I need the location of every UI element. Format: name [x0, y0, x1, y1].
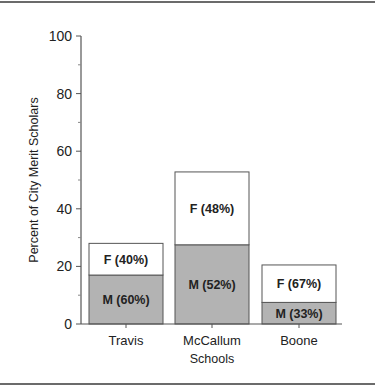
bar-mccallum: M (52%)F (48%)	[175, 172, 249, 324]
y-axis-title: Percent of City Merit Scholars	[27, 97, 41, 262]
segment-label: F (67%)	[277, 277, 321, 291]
y-tick-label: 80	[56, 86, 72, 102]
category-label: McCallum	[183, 333, 241, 348]
segment-label: M (52%)	[188, 278, 235, 292]
category-label: Boone	[280, 333, 318, 348]
x-axis-title: Schools	[190, 352, 234, 366]
y-tick-label: 60	[56, 143, 72, 159]
segment-label: F (48%)	[190, 202, 234, 216]
y-tick-label: 20	[56, 258, 72, 274]
bar-boone: M (33%)F (67%)	[262, 265, 336, 324]
category-label: Travis	[109, 333, 144, 348]
y-tick-label: 100	[49, 28, 73, 44]
segment-label: M (33%)	[275, 307, 322, 321]
segment-label: F (40%)	[104, 253, 148, 267]
segment-label: M (60%)	[102, 293, 149, 307]
bar-travis: M (60%)F (40%)	[89, 243, 163, 324]
y-tick-label: 40	[56, 201, 72, 217]
stacked-bar-chart: M (60%)F (40%)M (52%)F (48%)M (33%)F (67…	[0, 0, 375, 390]
bars-group: M (60%)F (40%)M (52%)F (48%)M (33%)F (67…	[89, 172, 336, 324]
y-tick-label: 0	[64, 316, 72, 332]
